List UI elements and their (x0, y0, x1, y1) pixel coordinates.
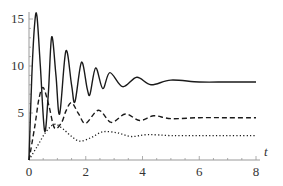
axes: 0246851015t (11, 11, 268, 179)
series-dotted-line (29, 124, 256, 160)
series-lines (29, 13, 256, 160)
x-tick-label: 2 (83, 164, 90, 179)
series-solid-line (29, 13, 256, 160)
y-tick-label: 5 (18, 105, 25, 120)
x-tick-label: 0 (26, 164, 33, 179)
x-tick-label: 8 (253, 164, 260, 179)
x-axis-label: t (264, 144, 268, 159)
x-tick-label: 4 (139, 164, 146, 179)
y-tick-label: 10 (11, 58, 24, 73)
y-tick-label: 15 (11, 11, 24, 26)
series-dashed-line (29, 87, 256, 160)
x-tick-label: 6 (196, 164, 203, 179)
line-chart: 0246851015t (0, 0, 283, 186)
